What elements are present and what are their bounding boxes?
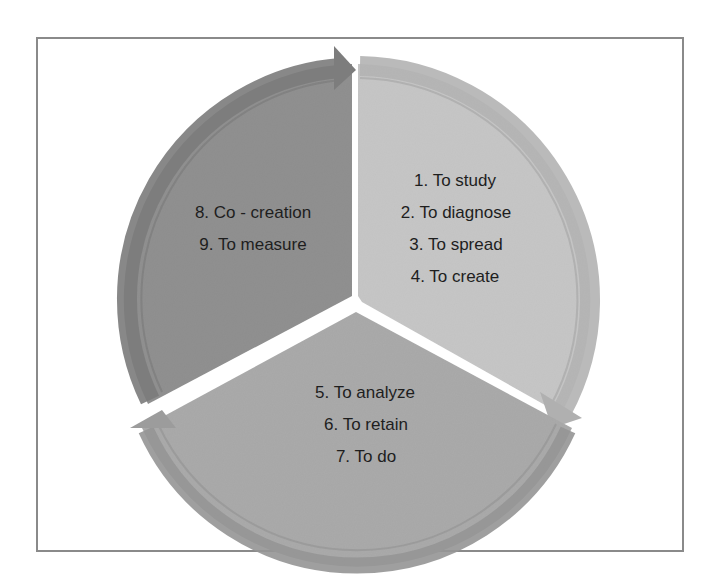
segment-text: 3. To spread bbox=[409, 235, 502, 254]
segment-text: 6. To retain bbox=[324, 415, 408, 434]
segment-text: 1. To study bbox=[414, 171, 496, 190]
segment-text: 2. To diagnose bbox=[401, 203, 511, 222]
segment-text: 4. To create bbox=[411, 267, 500, 286]
cycle-diagram: 1. To study 2. To diagnose 3. To spread … bbox=[0, 0, 722, 581]
segment-text: 9. To measure bbox=[199, 235, 306, 254]
segment-text: 8. Co - creation bbox=[195, 203, 311, 222]
segment-text: 7. To do bbox=[336, 447, 396, 466]
segment-text: 5. To analyze bbox=[315, 383, 415, 402]
